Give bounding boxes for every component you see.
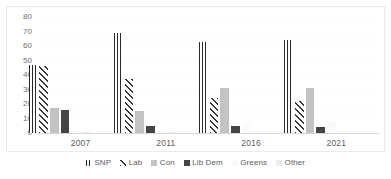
bar-con-2016 xyxy=(220,88,229,133)
legend-swatch-icon xyxy=(120,160,126,166)
chart-legend: SNPLabConLib DemGreensOther xyxy=(0,159,391,167)
legend-label: Con xyxy=(160,159,175,167)
bar-lab-2011 xyxy=(125,79,134,133)
legend-item-snp[interactable]: SNP xyxy=(86,159,111,167)
bar-chart: 01020304050607080 2007201120162021 SNPLa… xyxy=(0,0,391,179)
bar-lab-2021 xyxy=(295,101,304,133)
legend-item-other[interactable]: Other xyxy=(276,159,305,167)
bar-con-2021 xyxy=(306,88,315,133)
legend-label: Lab xyxy=(129,159,143,167)
bar-con-2007 xyxy=(50,108,59,133)
legend-label: SNP xyxy=(94,159,111,167)
bar-lib-dem-2016 xyxy=(231,126,240,133)
bar-snp-2016 xyxy=(199,42,208,133)
bar-greens-2016 xyxy=(242,124,251,133)
bar-group-2016 xyxy=(199,17,263,133)
bar-lib-dem-2007 xyxy=(61,110,70,133)
legend-item-con[interactable]: Con xyxy=(151,159,174,167)
bar-snp-2011 xyxy=(114,33,123,133)
bar-lab-2016 xyxy=(210,98,219,133)
x-axis-line xyxy=(38,133,379,134)
x-axis: 2007201120162021 xyxy=(38,138,379,152)
x-axis-tick-2016: 2016 xyxy=(209,138,294,148)
legend-swatch-icon xyxy=(86,160,92,166)
bar-snp-2021 xyxy=(284,40,293,133)
legend-item-lab[interactable]: Lab xyxy=(120,159,142,167)
bar-con-2011 xyxy=(135,111,144,133)
x-axis-tick-2007: 2007 xyxy=(38,138,123,148)
x-axis-tick-2011: 2011 xyxy=(123,138,208,148)
bar-group-2021 xyxy=(284,17,348,133)
bar-group-2011 xyxy=(114,17,178,133)
legend-item-lib-dem[interactable]: Lib Dem xyxy=(184,159,223,167)
legend-item-greens[interactable]: Greens xyxy=(232,159,267,167)
bar-snp-2007 xyxy=(29,65,38,133)
legend-swatch-icon xyxy=(184,160,190,166)
legend-label: Greens xyxy=(240,159,267,167)
legend-label: Lib Dem xyxy=(192,159,223,167)
legend-swatch-icon xyxy=(151,160,157,166)
bar-group-2007 xyxy=(29,17,93,133)
bar-lab-2007 xyxy=(39,66,48,133)
x-axis-tick-2021: 2021 xyxy=(294,138,379,148)
legend-swatch-icon xyxy=(232,160,238,166)
legend-swatch-icon xyxy=(276,160,282,166)
plot-area xyxy=(38,17,379,133)
bar-lib-dem-2011 xyxy=(146,126,155,133)
bar-greens-2021 xyxy=(327,121,336,133)
legend-label: Other xyxy=(285,159,306,167)
